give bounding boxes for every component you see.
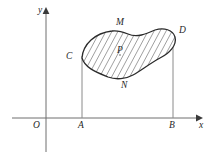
region-diagram: y x O A B C D M N P [0,0,212,160]
point-label-D: D [178,25,186,35]
region-hatching [60,20,196,95]
region-background [70,20,190,90]
point-label-A: A [77,120,84,130]
y-axis-label: y [37,5,43,15]
y-axis-arrowhead [43,7,50,14]
figure-container: y x O A B C D M N P [0,0,212,160]
point-label-M: M [115,17,125,27]
point-label-C: C [66,51,73,61]
x-axis-label: x [198,120,204,130]
origin-label-O: O [33,120,40,130]
point-label-B: B [169,120,175,130]
hatch-line-set [60,20,196,95]
axes-group [12,7,203,152]
point-label-N: N [120,80,128,90]
point-label-P: P [116,45,123,55]
